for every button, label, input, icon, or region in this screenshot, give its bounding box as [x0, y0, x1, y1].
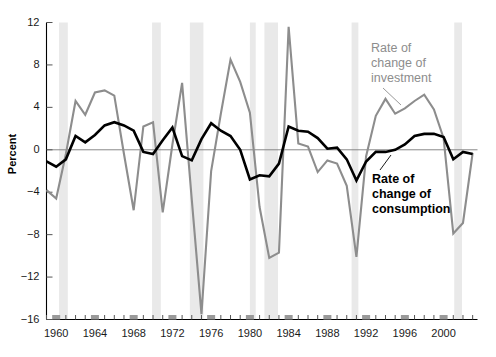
x-major-tick [52, 315, 60, 320]
investment-label-line-3: investment [371, 71, 481, 86]
x-tick-label: 1980 [230, 327, 270, 339]
chart-container: Percent 12840−4−8−12−16 1960196419681972… [0, 0, 496, 357]
consumption-label-line-1: Rate of [372, 172, 482, 187]
x-major-tick [285, 315, 293, 320]
recession-band [59, 23, 68, 320]
y-tick-label: −16 [14, 313, 40, 325]
y-tick-label: 12 [14, 16, 40, 28]
y-tick-label: −8 [14, 228, 40, 240]
y-tick-label: −12 [14, 270, 40, 282]
y-tick-label: 0 [14, 143, 40, 155]
investment-label-line-1: Rate of [371, 41, 481, 56]
x-major-tick [168, 315, 176, 320]
consumption-label-line-2: change of [372, 187, 482, 202]
x-major-tick [246, 315, 254, 320]
y-tick-marks [47, 23, 53, 320]
x-major-tick [401, 315, 409, 320]
y-tick-label: 4 [14, 100, 40, 112]
y-tick-label: 8 [14, 58, 40, 70]
x-tick-label: 1960 [36, 327, 76, 339]
x-tick-label: 1968 [114, 327, 154, 339]
x-major-tick [130, 315, 138, 320]
consumption-label-line-3: consumption [372, 202, 482, 217]
x-major-tick [362, 315, 370, 320]
x-tick-label: 1996 [385, 327, 425, 339]
x-tick-label: 1992 [346, 327, 386, 339]
annotation-leader-line [380, 155, 391, 170]
x-major-tick [440, 315, 448, 320]
x-major-tick [207, 315, 215, 320]
investment-series-label: Rate of change of investment [371, 41, 481, 86]
x-major-tick [91, 315, 99, 320]
annotation-leader-lines [380, 88, 401, 170]
x-tick-label: 1964 [75, 327, 115, 339]
recession-band [264, 23, 278, 320]
x-tick-label: 1976 [191, 327, 231, 339]
x-major-tick [323, 315, 331, 320]
recession-band [152, 23, 161, 320]
investment-label-line-2: change of [371, 56, 481, 71]
y-tick-label: −4 [14, 185, 40, 197]
x-tick-marks [47, 315, 473, 320]
x-tick-label: 2000 [424, 327, 464, 339]
x-tick-label: 1984 [269, 327, 309, 339]
x-tick-label: 1988 [307, 327, 347, 339]
annotation-leader-line [383, 88, 401, 105]
recession-band [190, 23, 204, 320]
x-tick-label: 1972 [152, 327, 192, 339]
consumption-series-label: Rate of change of consumption [372, 172, 482, 217]
